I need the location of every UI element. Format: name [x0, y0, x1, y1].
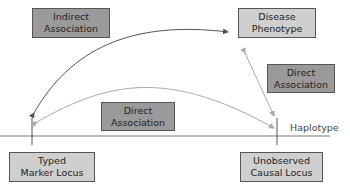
indirect-arrow: [34, 29, 228, 113]
indirect-association-box: IndirectAssociation: [32, 8, 110, 38]
direct-association-right-box: DirectAssociation: [267, 64, 335, 93]
haplotype-label: Haplotype: [290, 122, 339, 133]
disease-phenotype-box: DiseasePhenotype: [238, 8, 316, 38]
unobserved-causal-locus-box: UnobservedCausal Locus: [240, 152, 323, 182]
typed-marker-locus-box: TypedMarker Locus: [9, 152, 95, 182]
direct-association-middle-box: DirectAssociation: [101, 102, 175, 131]
